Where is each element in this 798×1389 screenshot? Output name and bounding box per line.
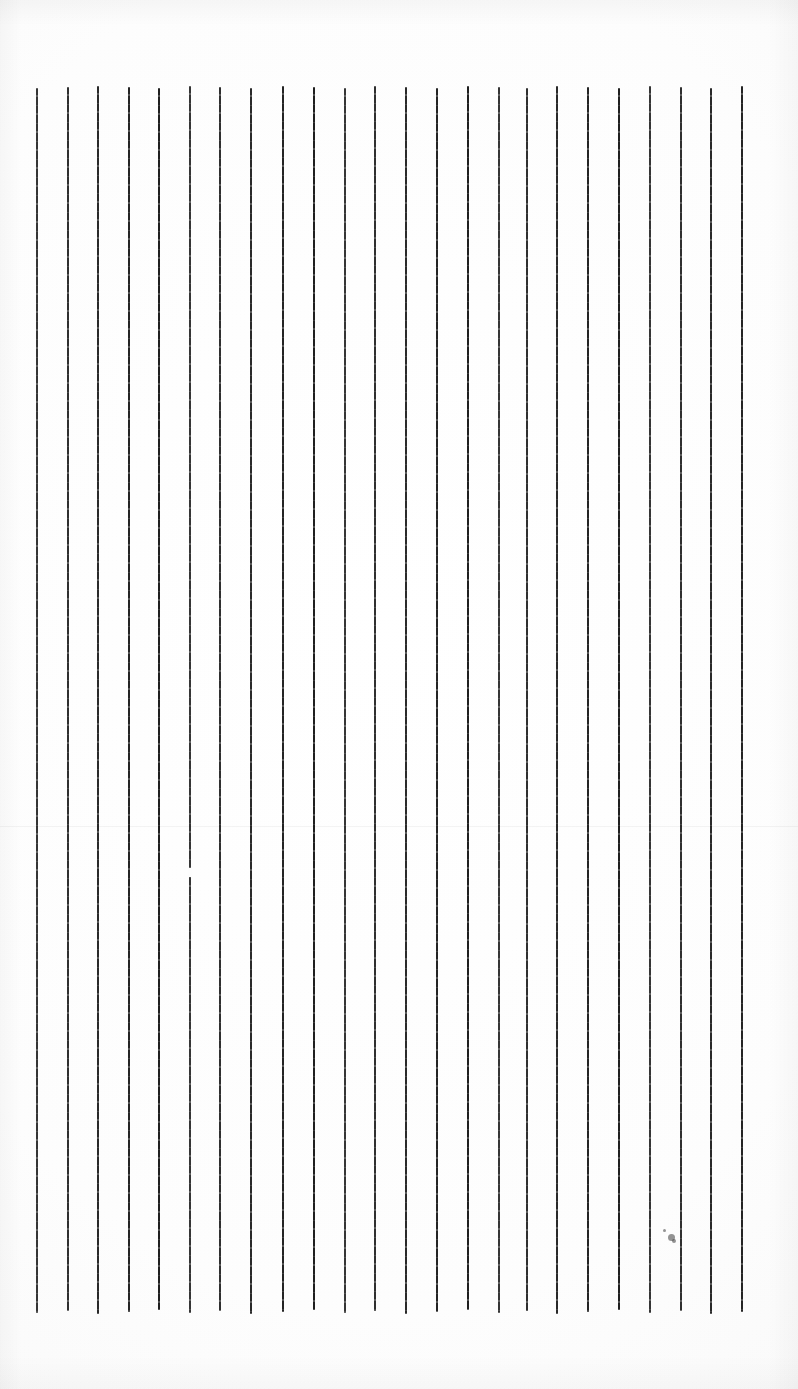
rule-line <box>587 87 589 1312</box>
rule-line <box>467 86 469 1310</box>
rule-line <box>67 87 69 1311</box>
rule-line <box>128 87 130 1312</box>
rule-line <box>344 88 346 1313</box>
rule-line <box>436 88 438 1312</box>
rule-line <box>189 86 191 1313</box>
rule-line <box>618 88 620 1310</box>
rule-line <box>526 88 528 1311</box>
rule-line <box>556 86 558 1314</box>
rule-line <box>680 87 682 1311</box>
rule-line <box>313 87 315 1310</box>
scanned-ruled-paper-image <box>0 0 798 1389</box>
rule-line <box>36 88 38 1313</box>
rule-line <box>649 86 651 1313</box>
rule-line <box>405 87 407 1314</box>
rule-line <box>282 86 284 1312</box>
rule-line <box>97 86 99 1314</box>
vertical-rule-lines-group <box>0 0 798 1389</box>
ink-speck <box>663 1229 666 1232</box>
rule-line <box>741 86 743 1312</box>
rule-line <box>219 87 221 1311</box>
rule-line-gap <box>188 868 192 877</box>
rule-line <box>250 88 252 1314</box>
rule-line <box>498 87 500 1313</box>
rule-line <box>710 88 712 1314</box>
ink-speck <box>672 1239 676 1243</box>
rule-line <box>374 86 376 1311</box>
rule-line <box>158 88 160 1310</box>
